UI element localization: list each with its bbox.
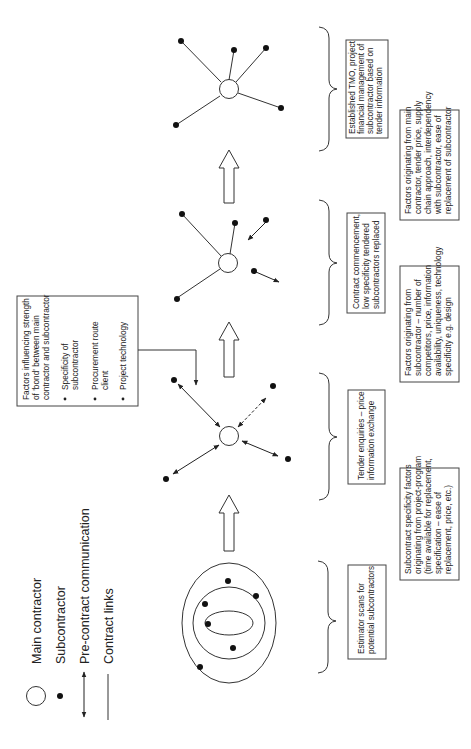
stage-1-factors-line-5: replacement, price, etc.) [443, 485, 453, 574]
stage-1-brace [318, 561, 336, 673]
stage-2-desc-line-2: information exchange [366, 400, 376, 480]
stage-1-factors-line-1: Subcontract specificity factors [403, 464, 413, 574]
main-contractor-node [220, 427, 239, 446]
progress-arrow-3 [219, 150, 239, 203]
stage-2-desc-line-1: Tender enquiries – price [356, 391, 366, 480]
legend-label-pre-contract-communication: Pre-contract communication [78, 508, 92, 664]
stage-3-description-box: Contract commencement, low specificity t… [347, 213, 385, 313]
subcontractor-dot [263, 45, 269, 51]
stage-4-description-box: Established TMO, project financial manag… [346, 40, 388, 138]
subcontractor-dot [251, 268, 257, 274]
stage-1-description-box: Estimator scans for potential subcontrac… [348, 565, 386, 659]
legend-label-contract-links: Contract links [102, 588, 116, 664]
stage-1-desc-line-2: potential subcontractors [366, 566, 376, 654]
influence-factors-box: Factors influencing strength of 'bond' b… [17, 294, 138, 406]
subcontractor-dot [171, 377, 177, 383]
influence-bullet-1-line-2: subcontractor [70, 339, 80, 390]
stage-2-factors-box: Factors originating from subcontractor –… [400, 246, 459, 382]
influence-bullet-2-line-1: Procurement route [90, 321, 100, 390]
subcontractor-dot [263, 217, 269, 223]
subcontractor-dot [197, 664, 203, 670]
bullet-icon [122, 398, 125, 401]
stage-4-brace [319, 27, 337, 151]
legend-label-subcontractor: Subcontractor [54, 586, 68, 664]
stage-3-factors-line-4: with subcontractor, ease of [433, 115, 443, 215]
stage-2-description-box: Tender enquiries – price information exc… [348, 390, 385, 484]
progress-arrow-1 [219, 495, 239, 551]
stage-2-factors-line-1: Factors originating from [403, 289, 413, 376]
stage-3-factors-line-2: contractor, tender price, supply [413, 100, 423, 214]
subcontractor-dot [173, 122, 179, 128]
subcontractor-dot [270, 383, 276, 389]
subcontractor-dot [174, 296, 180, 302]
stage-1-factors-box: Subcontract specificity factors originat… [400, 456, 459, 580]
stage-1-factors-line-2: originating from project-program [413, 456, 423, 574]
subcontractor-dot [205, 621, 211, 627]
stage-3-factors-line-5: replacement of subcontractor [443, 106, 453, 214]
stage-4-desc-line-4: tender information [374, 67, 384, 134]
stage-3-desc-line-2: low specificity tendered [361, 223, 371, 309]
subcontractor-dot [230, 645, 236, 651]
stage-3-factors-line-1: Factors originating from main [403, 106, 413, 214]
influence-title-line-3: contractor and subcontractor [41, 294, 51, 400]
main-contractor-node [219, 254, 238, 273]
influence-title-line-1: Factors influencing strength [21, 298, 31, 400]
influence-connector-arrow [138, 350, 196, 385]
stage-2-diagram [163, 377, 291, 482]
influence-title-line-2: of 'bond' between main [31, 315, 41, 400]
subcontractor-relationship-diagram: Main contractor Subcontractor Pre-contra… [0, 0, 471, 749]
subcontractor-dot [231, 47, 237, 53]
stage-2-factors-line-2: subcontractor – number of [413, 278, 423, 376]
stage-3-factors-box: Factors originating from main contractor… [400, 90, 459, 220]
main-contractor-node [220, 80, 239, 99]
stage-1-factors-line-3: (time available for replacement, [423, 458, 433, 574]
stage-3-diagram [174, 211, 279, 302]
influence-bullet-1-line-1: Specificity of [60, 343, 70, 390]
stage-3-brace [319, 200, 337, 325]
stage-2-factors-line-4: availability, uniqueness, technology [433, 246, 443, 376]
stage-1-diagram [182, 563, 276, 683]
subcontractor-dot [202, 601, 208, 607]
stage-2-brace [319, 373, 337, 500]
subcontractor-dot [225, 578, 231, 584]
influence-bullet-3-line-1: Project technology [118, 321, 128, 390]
stage-2-factors-line-5: specificity e.g. design [443, 297, 453, 376]
influence-bullet-2-line-2: client [100, 370, 110, 390]
stage-1-factors-line-4: specification – ease of [433, 491, 443, 574]
progress-arrow-2 [219, 322, 239, 377]
legend-label-main-contractor: Main contractor [30, 578, 44, 664]
stage-1-desc-line-1: Estimator scans for [356, 583, 366, 654]
legend: Main contractor Subcontractor Pre-contra… [27, 508, 117, 720]
stage-3-desc-line-1: Contract commencement, [351, 214, 361, 309]
subcontractor-dot [163, 476, 169, 482]
subcontractor-dot [278, 105, 284, 111]
main-contractor-legend-icon [27, 687, 46, 706]
stage-4-diagram [173, 38, 284, 128]
stage-2-factors-line-3: competitors, price, information [423, 264, 433, 376]
subcontractor-legend-icon [57, 693, 63, 699]
bullet-icon [64, 398, 67, 401]
stage-3-desc-line-3: subcontractors replaced [371, 220, 381, 309]
subcontractor-dot [178, 38, 184, 44]
subcontractor-dot [179, 211, 185, 217]
bullet-icon [94, 398, 97, 401]
stage-3-factors-line-3: chain approach, interdependency [423, 90, 433, 214]
subcontractor-dot [285, 456, 291, 462]
subcontractor-dot [253, 593, 259, 599]
subcontractor-dot [232, 220, 238, 226]
